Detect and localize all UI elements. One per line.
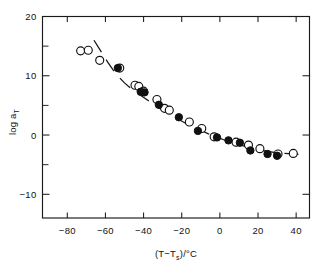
- data-point-filled-circle: [225, 137, 232, 144]
- x-tick-label: −60: [97, 225, 114, 236]
- x-axis-title: (T−Ts)/°C: [155, 248, 197, 261]
- x-tick-label: 20: [252, 225, 263, 236]
- data-point-filled-circle: [155, 101, 162, 108]
- x-tick-label: 0: [217, 225, 223, 236]
- data-point-filled-circle: [114, 64, 121, 71]
- x-tick-label: −40: [135, 225, 152, 236]
- data-point-open-circle: [84, 46, 92, 54]
- data-point-filled-circle: [175, 114, 182, 121]
- y-tick-label: 20: [25, 11, 36, 22]
- data-point-filled-circle: [194, 127, 201, 134]
- chart-figure: −80−60−40−2002040 −1001020 (T−Ts)/°C log…: [0, 0, 324, 270]
- scatter-plot-svg: −80−60−40−2002040 −1001020 (T−Ts)/°C log…: [0, 0, 324, 270]
- data-point-open-circle: [77, 47, 85, 55]
- data-point-open-circle: [165, 106, 173, 114]
- y-tick-label: −10: [19, 189, 36, 200]
- data-point-open-circle: [96, 56, 104, 64]
- data-point-open-circle: [256, 145, 264, 153]
- y-tick-label: 0: [31, 130, 37, 141]
- x-tick-label: 40: [291, 225, 302, 236]
- x-tick-label: −80: [59, 225, 76, 236]
- data-point-open-circle: [185, 118, 193, 126]
- data-point-filled-circle: [264, 150, 271, 157]
- data-point-filled-circle: [213, 134, 220, 141]
- data-point-filled-circle: [141, 89, 148, 96]
- data-point-filled-circle: [236, 139, 243, 146]
- data-point-open-circle: [289, 149, 297, 157]
- x-tick-label: −20: [173, 225, 190, 236]
- data-point-filled-circle: [273, 152, 280, 159]
- data-point-filled-circle: [247, 147, 254, 154]
- y-tick-label: 10: [25, 70, 36, 81]
